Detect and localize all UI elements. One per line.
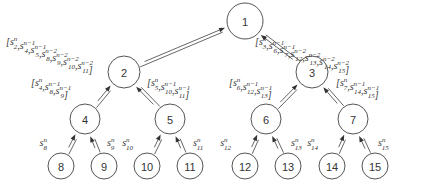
tree-node-6: 6 (251, 104, 281, 134)
edge-message-label: [sn7,sn−114,sn−115] (336, 76, 379, 100)
tree-node-8: 8 (48, 153, 74, 179)
edge-message-label: sn13 (291, 136, 302, 152)
tree-node-10: 10 (134, 153, 160, 179)
edge-line (95, 139, 101, 153)
node-label: 3 (309, 67, 315, 79)
edge-11-to-5 (176, 136, 186, 152)
node-label: 1 (242, 16, 248, 28)
edge-8-to-4 (69, 134, 77, 154)
tree-node-9: 9 (91, 153, 117, 179)
nodes-layer: 123456789101112131415 (48, 3, 388, 179)
edge-line (328, 88, 343, 106)
edge-12-to-6 (252, 135, 259, 154)
arrow-head-icon (156, 134, 161, 140)
edge-7-to-3 (323, 87, 343, 106)
edge-6-to-3 (278, 84, 297, 108)
node-label: 2 (121, 67, 127, 79)
node-label: 11 (184, 161, 195, 173)
node-label: 4 (82, 114, 88, 126)
edge-line (252, 140, 258, 154)
edge-line (140, 32, 222, 67)
node-label: 10 (141, 161, 153, 173)
tree-node-5: 5 (155, 104, 185, 134)
edge-message-label: sn15 (378, 136, 389, 152)
edge-13-to-6 (272, 136, 283, 153)
edge-line (277, 138, 284, 152)
node-label: 7 (350, 114, 356, 126)
tree-diagram: 123456789101112131415 [sn2,sn−14,sn−15,s… (0, 0, 433, 189)
edge-line (364, 138, 371, 152)
node-label: 6 (263, 114, 269, 126)
edge-9-to-4 (90, 136, 100, 152)
edge-arrow-line (145, 29, 222, 61)
tree-node-11: 11 (177, 153, 203, 179)
edge-4-to-2 (96, 86, 110, 108)
arrow-head-icon (359, 136, 364, 142)
node-label: 9 (101, 161, 107, 173)
edge-10-to-5 (154, 134, 161, 154)
edge-line (69, 139, 77, 154)
edge-line (96, 91, 110, 108)
edge-line (155, 139, 162, 154)
edge-line (278, 90, 297, 109)
tree-node-2: 2 (108, 56, 140, 88)
labels-layer: [sn2,sn−14,sn−15,sn−28,sn−29,sn−210,sn−2… (6, 35, 389, 152)
edge-message-label: sn10 (122, 136, 133, 152)
node-label: 8 (58, 161, 64, 173)
arrow-head-icon (340, 135, 345, 141)
edge-message-label: [sn4,sn−18,sn−19] (31, 76, 71, 100)
tree-node-14: 14 (319, 153, 345, 179)
node-label: 14 (326, 161, 338, 173)
node-label: 5 (167, 114, 173, 126)
edge-message-label: sn14 (307, 136, 318, 152)
edge-message-label: sn9 (107, 136, 115, 152)
edge-line (180, 139, 186, 153)
tree-node-4: 4 (70, 104, 100, 134)
edge-message-label: [sn2,sn−14,sn−15,sn−28,sn−29,sn−210,sn−2… (6, 35, 94, 75)
edge-line (339, 140, 345, 154)
tree-node-1: 1 (227, 3, 263, 39)
tree-node-15: 15 (362, 153, 388, 179)
edge-message-label: [sn5,sn−110,sn−111] (147, 76, 190, 100)
arrow-head-icon (71, 134, 76, 140)
edge-message-label: sn8 (40, 136, 48, 152)
node-label: 12 (239, 161, 251, 173)
edge-message-label: sn12 (220, 136, 231, 152)
arrow-head-icon (272, 136, 277, 142)
node-label: 13 (282, 161, 294, 173)
tree-node-13: 13 (275, 153, 301, 179)
arrow-head-icon (176, 136, 180, 142)
arrow-head-icon (90, 136, 94, 142)
edge-message-label: sn11 (193, 136, 203, 152)
edge-15-to-7 (359, 136, 370, 153)
arrow-head-icon (219, 28, 225, 32)
tree-node-7: 7 (338, 104, 368, 134)
arrow-head-icon (253, 135, 258, 141)
edge-message-label: [sn6,sn−112,sn−113] (229, 76, 272, 100)
node-label: 15 (369, 161, 381, 173)
tree-node-12: 12 (232, 153, 258, 179)
edge-2-to-1 (140, 28, 225, 67)
edge-14-to-7 (339, 135, 346, 154)
